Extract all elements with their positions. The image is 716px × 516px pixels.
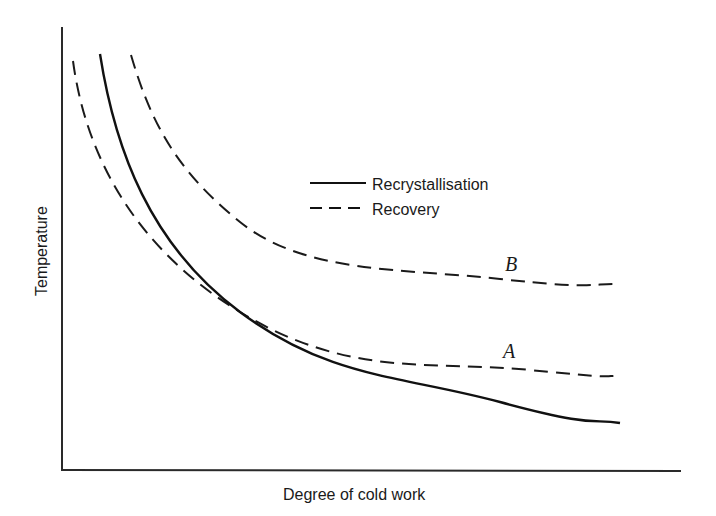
curve-recovery-b — [131, 55, 620, 285]
curve-label-b: B — [505, 253, 517, 275]
curve-recrystallisation — [100, 54, 620, 423]
chart-canvas: B A Recrystallisation Recovery Degree of… — [0, 0, 716, 516]
curve-label-a: A — [501, 340, 516, 362]
x-axis-label: Degree of cold work — [283, 486, 426, 503]
x-axis — [61, 470, 681, 471]
legend: Recrystallisation Recovery — [310, 176, 488, 218]
legend-label-recovery: Recovery — [372, 201, 440, 218]
y-axis-label: Temperature — [33, 206, 50, 296]
legend-label-recrystallisation: Recrystallisation — [372, 176, 488, 193]
